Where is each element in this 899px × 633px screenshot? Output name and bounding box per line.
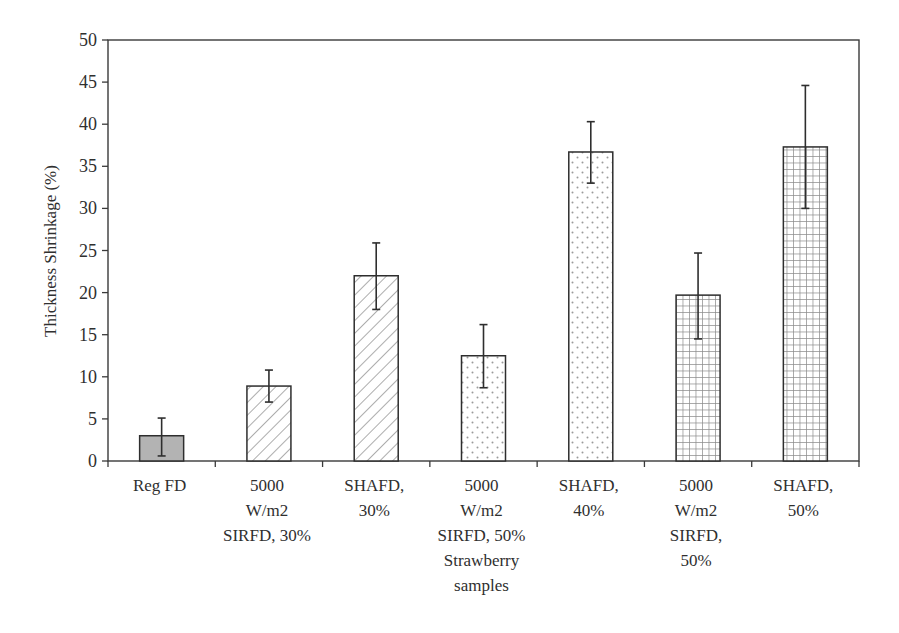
x-category-label-line: W/m2: [246, 501, 289, 520]
x-category-label-line: SHAFD,: [344, 476, 404, 495]
y-tick-label: 0: [88, 451, 97, 471]
x-category-label-line: 5000: [465, 476, 499, 495]
bar-chart: 05101520253035404550 Reg FD5000W/m2SIRFD…: [0, 0, 899, 633]
y-tick-label: 15: [79, 325, 97, 345]
y-tick-label: 45: [79, 72, 97, 92]
x-category-label: SHAFD,40%: [559, 476, 619, 520]
x-category-label-line: 5000: [679, 476, 713, 495]
x-category-label-line: W/m2: [675, 501, 718, 520]
x-category-label-line: SHAFD,: [559, 476, 619, 495]
x-category-label: SHAFD,50%: [773, 476, 833, 520]
y-axis: 05101520253035404550: [79, 30, 108, 471]
x-category-label-line: SIRFD, 30%: [223, 526, 311, 545]
x-category-label-line: SIRFD, 50%: [438, 526, 526, 545]
bars: [140, 147, 828, 461]
y-tick-label: 30: [79, 198, 97, 218]
y-tick-label: 10: [79, 367, 97, 387]
x-category-labels: Reg FD5000W/m2SIRFD, 30%SHAFD,30%5000W/m…: [133, 476, 833, 595]
x-category-label: SHAFD,30%: [344, 476, 404, 520]
x-category-label-line: 50%: [788, 501, 819, 520]
x-category-label-line: 5000: [250, 476, 284, 495]
x-category-label-line: W/m2: [460, 501, 503, 520]
x-category-label: 5000W/m2SIRFD, 50%Strawberrysamples: [438, 476, 526, 595]
x-category-label-line: Reg FD: [133, 476, 186, 495]
x-category-label-line: 50%: [680, 551, 711, 570]
x-category-label: 5000W/m2SIRFD,50%: [670, 476, 722, 570]
x-category-label-line: SHAFD,: [773, 476, 833, 495]
chart-canvas: 05101520253035404550 Reg FD5000W/m2SIRFD…: [0, 0, 899, 633]
x-axis: [108, 461, 859, 467]
x-category-label-line: Strawberry: [444, 551, 520, 570]
bar-5: [569, 152, 613, 461]
x-category-label-line: 30%: [359, 501, 390, 520]
x-category-label-line: 40%: [573, 501, 604, 520]
y-axis-title: Thickness Shrinkage (%): [41, 165, 60, 337]
x-category-label-line: samples: [454, 576, 509, 595]
x-category-label: Reg FD: [133, 476, 186, 495]
y-tick-label: 25: [79, 241, 97, 261]
y-tick-label: 5: [88, 409, 97, 429]
x-category-label: 5000W/m2SIRFD, 30%: [223, 476, 311, 545]
y-tick-label: 35: [79, 156, 97, 176]
x-category-label-line: SIRFD,: [670, 526, 722, 545]
y-tick-label: 20: [79, 283, 97, 303]
y-tick-label: 40: [79, 114, 97, 134]
y-tick-label: 50: [79, 30, 97, 50]
